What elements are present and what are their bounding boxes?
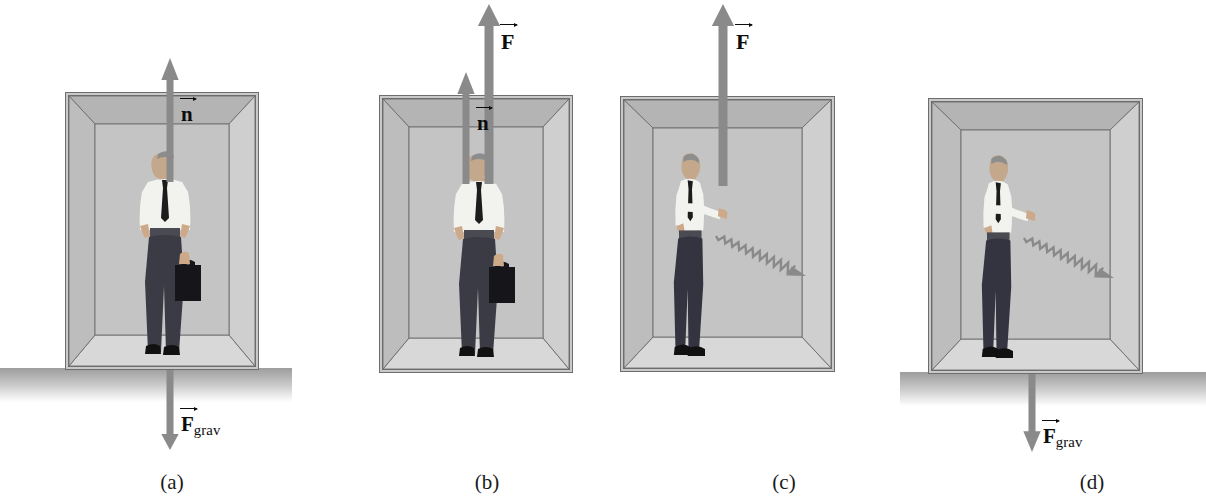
force-subscript: grav xyxy=(1056,434,1083,450)
panel-caption-d: (d) xyxy=(1062,470,1122,495)
vector-symbol: F xyxy=(1043,426,1056,447)
zigzag-path-glyph xyxy=(1008,222,1130,294)
ground-surface-d xyxy=(900,372,1206,406)
force-symbol: F xyxy=(1043,424,1056,448)
vector-arrow-overbar xyxy=(1042,420,1059,421)
physics-figure: nFgrav(a)nF(b)F(c)Fgrav(d) xyxy=(0,0,1206,503)
force-label-gravity-force-d: Fgrav xyxy=(1043,426,1082,450)
panel-d: Fgrav(d) xyxy=(0,0,1206,503)
wavy-arrow-d xyxy=(1008,222,1130,294)
